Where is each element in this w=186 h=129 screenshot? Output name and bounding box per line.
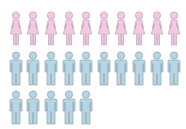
- male-figure-icon: [60, 51, 78, 87]
- female-figure-icon: [42, 11, 60, 47]
- male-figure-icon: [130, 51, 148, 87]
- male-figure-icon: [25, 90, 43, 126]
- male-figure-icon: [77, 90, 95, 126]
- male-figure-icon: [7, 90, 25, 126]
- female-figure-icon: [165, 11, 183, 47]
- male-figure-icon: [113, 51, 131, 87]
- male-figure-icon: [25, 51, 43, 87]
- male-figure-icon: [42, 51, 60, 87]
- female-figure-icon: [77, 11, 95, 47]
- male-figure-icon: [7, 51, 25, 87]
- male-figure-icon: [42, 90, 60, 126]
- male-figure-icon: [148, 51, 166, 87]
- male-figure-icon: [77, 51, 95, 87]
- pictogram-row-men: [7, 51, 183, 87]
- female-figure-icon: [148, 11, 166, 47]
- male-figure-icon: [60, 90, 78, 126]
- male-figure-icon: [165, 51, 183, 87]
- male-figure-icon: [95, 51, 113, 87]
- female-figure-icon: [25, 11, 43, 47]
- female-figure-icon: [60, 11, 78, 47]
- female-figure-icon: [7, 11, 25, 47]
- female-figure-icon: [113, 11, 131, 47]
- female-figure-icon: [130, 11, 148, 47]
- pictogram-row-women: [7, 11, 183, 47]
- female-figure-icon: [95, 11, 113, 47]
- pictogram-row-men: [7, 90, 95, 126]
